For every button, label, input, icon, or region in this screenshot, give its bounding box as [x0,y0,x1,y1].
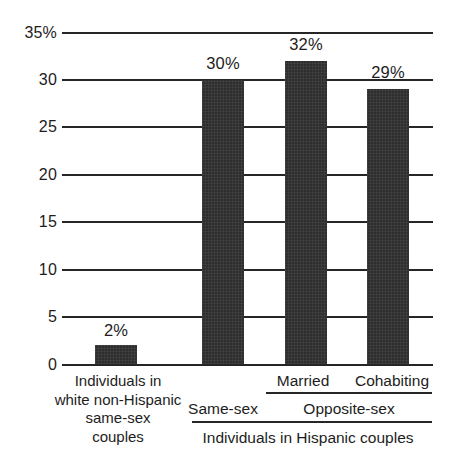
category-label-white-nonhispanic: Individuals in white non-Hispanic same-s… [48,372,188,446]
bracket-opposite-sex-subtypes [266,392,432,394]
y-tick-label-30: 30 [0,72,57,88]
bar-white-nonhispanic-same-sex [95,345,137,364]
category-label-opposite-sex: Opposite-sex [266,400,432,418]
category-label-married: Married [262,372,344,390]
y-tick-label-10: 10 [0,262,57,278]
bar-hispanic-same-sex [202,80,244,364]
category-label-line-3: same-sex [48,409,188,428]
bar-hispanic-opposite-sex-cohabiting [367,89,409,364]
category-label-line-1: Individuals in [48,372,188,391]
bar-chart: 35% 30 25 20 15 10 5 0 2% 30% 32% 29% In… [0,0,452,467]
category-label-hispanic-couples: Individuals in Hispanic couples [178,429,438,447]
category-label-same-sex: Same-sex [178,400,268,418]
axis-baseline-0 [62,364,433,366]
y-tick-label-0: 0 [0,357,57,373]
bar-value-label-1: 2% [76,322,156,339]
category-label-cohabiting: Cohabiting [344,372,440,390]
y-tick-label-20: 20 [0,167,57,183]
y-tick-label-15: 15 [0,214,57,230]
y-tick-label-35: 35% [0,25,57,41]
category-label-line-4: couples [48,428,188,447]
category-label-line-2: white non-Hispanic [48,391,188,410]
bar-value-label-3: 32% [266,36,346,53]
bar-value-label-2: 30% [183,55,263,72]
bracket-hispanic-couples [192,421,432,423]
bar-hispanic-opposite-sex-married [285,61,327,364]
y-tick-label-25: 25 [0,119,57,135]
gridline-35 [62,32,433,34]
y-tick-label-5: 5 [0,309,57,325]
bar-value-label-4: 29% [348,64,428,81]
